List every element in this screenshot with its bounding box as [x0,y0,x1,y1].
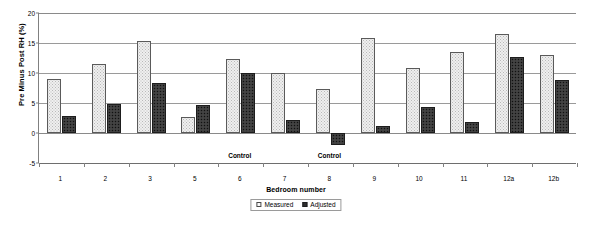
x-axis-tick-label: 7 [283,175,287,182]
y-axis-tick-label: 5 [31,100,35,107]
bar-measured [316,89,330,133]
measured-swatch-icon [256,202,261,207]
bar-group [218,13,263,163]
plot-area: -505101520 [38,13,576,163]
legend-label-measured: Measured [264,201,293,208]
bar-adjusted [555,80,569,133]
bar-chart: Pre Minus Post RH (%) -505101520 1235678… [0,0,592,235]
bar-measured [361,38,375,133]
bar-measured [406,68,420,133]
x-axis-tick-label: 1 [59,175,63,182]
x-axis-tick-mark [487,163,488,167]
bar-adjusted [510,57,524,133]
bar-group [129,13,174,163]
x-axis-tick-label: 12b [548,175,559,182]
bar-group [39,13,84,163]
bar-group [532,13,577,163]
bar-group [443,13,488,163]
x-axis-tick-label: 6 [238,175,242,182]
x-axis-tick-mark [218,163,219,167]
y-axis-title: Pre Minus Post RH (%) [17,0,26,130]
bar-measured [271,73,285,133]
legend-item-adjusted: Adjusted [302,201,335,208]
bar-measured [47,79,61,133]
x-axis-tick-label: 9 [372,175,376,182]
y-axis-tick-label: 20 [28,10,35,17]
bar-group [353,13,398,163]
annotation-control: Control [318,152,341,159]
x-axis-tick-mark [443,163,444,167]
bar-adjusted [152,83,166,133]
y-axis-tick-label: 0 [31,130,35,137]
x-axis-tick-mark [39,163,40,167]
bar-adjusted [421,107,435,133]
bar-measured [226,59,240,133]
bar-measured [181,117,195,133]
x-axis-tick-mark [577,163,578,167]
bar-measured [495,34,509,133]
x-axis-tick-mark [84,163,85,167]
x-axis-tick-mark [353,163,354,167]
bar-adjusted [331,133,345,145]
chart-legend: Measured Adjusted [250,199,341,211]
x-axis-tick-label: 3 [148,175,152,182]
x-axis-tick-mark [308,163,309,167]
bar-group [263,13,308,163]
x-axis-tick-label: 2 [103,175,107,182]
bar-measured [450,52,464,133]
bar-adjusted [196,105,210,133]
legend-item-measured: Measured [256,201,293,208]
x-axis-tick-label: 5 [193,175,197,182]
x-axis-tick-label: 10 [415,175,422,182]
bar-group [398,13,443,163]
x-axis-tick-mark [174,163,175,167]
x-axis-title: Bedroom number [0,186,592,193]
x-axis-tick-label: 8 [328,175,332,182]
bar-group [487,13,532,163]
adjusted-swatch-icon [302,202,307,207]
bar-group [174,13,219,163]
y-axis-tick-label: 15 [28,40,35,47]
bar-adjusted [286,120,300,133]
y-axis-tick-label: -5 [29,160,35,167]
bar-measured [540,55,554,133]
x-axis-tick-label: 11 [461,175,468,182]
bar-adjusted [62,116,76,133]
bar-group [308,13,353,163]
x-axis-tick-mark [532,163,533,167]
bar-adjusted [107,104,121,133]
x-axis-tick-mark [129,163,130,167]
bar-adjusted [241,73,255,133]
x-axis-tick-mark [398,163,399,167]
bar-series-layer [39,13,576,163]
bar-adjusted [376,126,390,133]
bar-measured [137,41,151,133]
legend-label-adjusted: Adjusted [310,201,335,208]
bar-measured [92,64,106,133]
annotation-control: Control [228,152,251,159]
bar-adjusted [465,122,479,133]
x-axis-tick-mark [263,163,264,167]
bar-group [84,13,129,163]
x-axis-tick-label: 12a [503,175,514,182]
y-axis-tick-label: 10 [28,70,35,77]
